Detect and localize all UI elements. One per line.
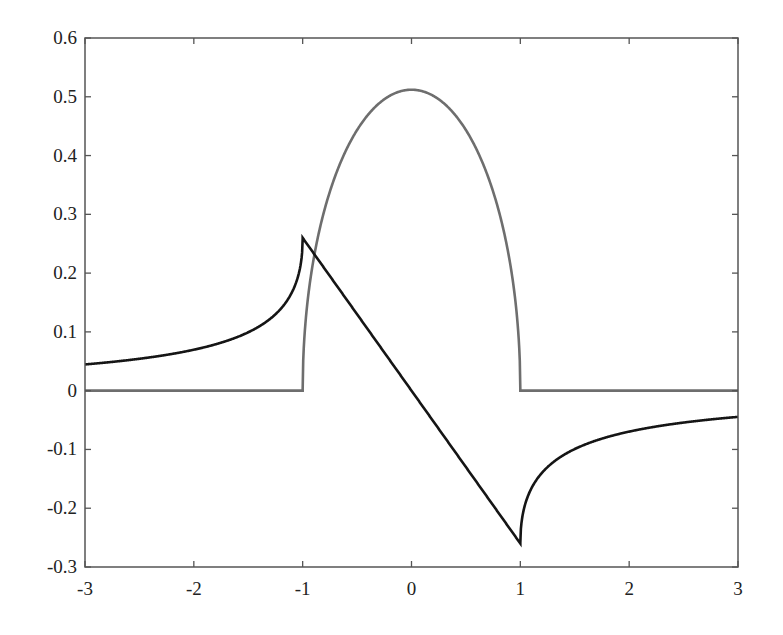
x-tick-label: 1 [516,578,526,599]
x-tick-label: -2 [186,578,202,599]
gray-semicircle-curve [85,90,738,391]
x-tick-label: 2 [624,578,634,599]
x-axis-tick-labels: -3-2-10123 [77,578,743,599]
y-tick-label: 0.3 [53,203,77,224]
line-chart: -3-2-10123 -0.3-0.2-0.100.10.20.30.40.50… [0,0,783,635]
x-tick-label: 3 [733,578,743,599]
y-axis-tick-labels: -0.3-0.2-0.100.10.20.30.40.50.6 [47,27,78,577]
x-tick-label: 0 [407,578,417,599]
plot-curves [85,90,738,544]
y-tick-label: -0.2 [47,497,77,518]
y-tick-label: 0.6 [53,27,77,48]
y-tick-label: -0.3 [47,556,77,577]
axis-ticks [85,38,738,567]
y-tick-label: 0.2 [53,262,77,283]
y-tick-label: 0 [68,380,78,401]
y-tick-label: 0.4 [53,145,77,166]
x-tick-label: -1 [295,578,311,599]
y-tick-label: 0.5 [53,86,77,107]
x-tick-label: -3 [77,578,93,599]
y-tick-label: -0.1 [47,438,77,459]
y-tick-label: 0.1 [53,321,77,342]
axes-frame [85,38,738,567]
